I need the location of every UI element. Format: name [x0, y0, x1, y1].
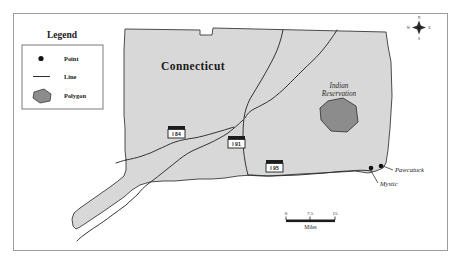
shield-label-i84: I 84: [172, 131, 181, 137]
compass-label-west: W: [407, 26, 411, 30]
page-title: Connecticut: [161, 60, 225, 72]
highway-shield-i91[interactable]: I 91: [228, 136, 245, 148]
city-label-mystic: Mystic: [379, 180, 398, 187]
legend-title: Legend: [47, 30, 78, 40]
leader-line-pawcatuck: [383, 166, 393, 170]
legend-label-polygon: Polygon: [64, 92, 86, 99]
river-shoreline-stream: [116, 160, 126, 163]
legend-label-point: Point: [64, 55, 79, 62]
shield-label-i91: I 91: [232, 141, 241, 147]
scale-bar: 0 7.5 15 Miles: [285, 211, 338, 230]
compass-label-south: S: [418, 37, 420, 41]
compass-label-north: N: [418, 16, 421, 20]
scale-bar-track: [286, 220, 335, 223]
scale-tick-label-max: 15: [333, 211, 339, 216]
map-figure: IndianReservation Connecticut I 84 I 91 …: [0, 0, 461, 268]
shield-top-bar-i91: [228, 136, 245, 139]
indian-reservation-group: IndianReservation: [320, 82, 358, 132]
shield-top-bar-i84: [168, 126, 185, 129]
legend-box: [22, 45, 103, 109]
map-canvas: IndianReservation Connecticut I 84 I 91 …: [0, 0, 461, 268]
point-marker-pawcatuck[interactable]: [379, 164, 384, 169]
scale-bar-unit-label: Miles: [304, 224, 316, 230]
compass-center-dot: [418, 26, 420, 28]
point-marker-mystic[interactable]: [369, 166, 374, 171]
highway-shield-i84[interactable]: I 84: [168, 126, 185, 138]
compass-rose: N S W E: [407, 16, 432, 41]
legend: Legend Point Line Polygon: [22, 30, 103, 109]
scale-tick-label-mid: 7.5: [307, 211, 314, 216]
highway-shield-i95[interactable]: I 95: [266, 160, 283, 172]
scale-tick-label-0: 0: [285, 211, 288, 216]
legend-point-icon: [38, 56, 43, 61]
city-label-pawcatuck: Pawcatuck: [394, 166, 425, 173]
compass-label-east: E: [428, 26, 431, 30]
legend-label-line: Line: [64, 73, 77, 80]
leader-line-mystic: [371, 171, 378, 183]
shield-label-i95: I 95: [270, 165, 279, 171]
shield-top-bar-i95: [266, 160, 283, 163]
